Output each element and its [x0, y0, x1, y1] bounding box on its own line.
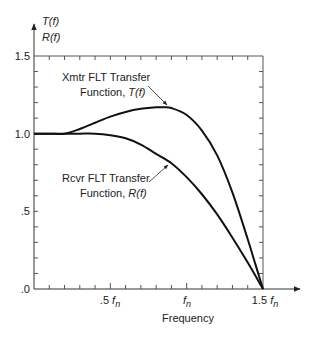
y-axis-label-t: T(f): [42, 15, 59, 27]
r-annotation-line2: Function, R(f): [80, 187, 147, 199]
x-tick-label-0.5fn: .5 fn: [100, 294, 120, 309]
r-annotation-arrow: [149, 165, 168, 182]
y-tick-label-0.5: .5: [21, 205, 30, 217]
t-annotation-arrow: [148, 86, 167, 105]
t-annotation-line1: Xmtr FLT Transfer: [62, 71, 151, 83]
r-curve: [34, 134, 263, 289]
r-annotation-line1: Rcvr FLT Transfer: [62, 172, 150, 184]
y-tick-label-1.5: 1.5: [15, 50, 30, 62]
y-axis-label-r: R(f): [42, 31, 61, 43]
chart: T(f) R(f) 1.5 1.0 .5 .0 .5 fn fn 1.5 fn …: [0, 0, 313, 339]
x-axis-title: Frequency: [162, 312, 214, 324]
y-tick-label-0.0: .0: [21, 283, 30, 295]
x-tick-label-fn: fn: [183, 294, 191, 309]
x-tick-label-1.5fn: 1.5 fn: [252, 294, 278, 309]
t-annotation-line2: Function, T(f): [80, 86, 146, 98]
y-tick-label-1.0: 1.0: [15, 128, 30, 140]
